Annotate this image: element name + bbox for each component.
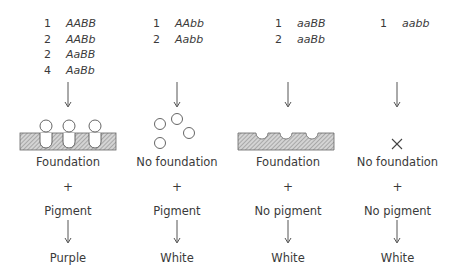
arrow-down-icon [63,82,73,108]
phenotype-label: White [120,251,234,265]
plus-sign: + [0,180,136,194]
foundation-with-pigment-icon [18,112,120,152]
pigment-label: Pigment [0,204,136,218]
foundation-label: Foundation [0,155,136,169]
arrow-down-icon [63,220,73,244]
arrow-down-icon [283,82,293,108]
genotype-row: 2Aabb [153,32,204,48]
genotype-row: 2AaBB [44,47,96,63]
genotype-row: 4AaBb [44,63,96,79]
column-white-double-recessive: 1aabb No foundation + No pigment White [342,0,453,278]
x-mark-icon [390,137,404,151]
genotype-row: 1AABB [44,16,96,32]
arrow-down-icon [392,220,402,244]
phenotype-label: White [342,251,453,265]
arrow-down-icon [283,220,293,244]
genotype-list: 1aabb [380,16,429,32]
phenotype-label: White [230,251,346,265]
loose-pigment-circles-icon [150,112,210,152]
genotype-row: 1aabb [380,16,429,32]
column-white-no-pigment: 1aaBB 2aaBb Foundation + No pigment Whit… [230,0,346,278]
genotype-list: 1AAbb 2Aabb [153,16,204,47]
arrow-down-icon [392,82,402,108]
pigment-label: No pigment [230,204,346,218]
genotype-list: 1aaBB 2aaBb [275,16,326,47]
plus-sign: + [342,180,453,194]
genotype-row: 1aaBB [275,16,326,32]
column-white-no-foundation: 1AAbb 2Aabb No foundation + Pigment Whit… [120,0,234,278]
foundation-label: No foundation [120,155,234,169]
genotype-row: 1AAbb [153,16,204,32]
column-purple: 1AABB 2AABb 2AaBB 4AaBb Foundation + Pig… [0,0,136,278]
phenotype-label: Purple [0,251,136,265]
plus-sign: + [230,180,346,194]
arrow-down-icon [172,220,182,244]
genotype-list: 1AABB 2AABb 2AaBB 4AaBb [44,16,96,78]
empty-foundation-icon [236,112,340,152]
arrow-down-icon [172,82,182,108]
pigment-label: Pigment [120,204,234,218]
foundation-label: Foundation [230,155,346,169]
pigment-label: No pigment [342,204,453,218]
genotype-row: 2aaBb [275,32,326,48]
plus-sign: + [120,180,234,194]
genotype-row: 2AABb [44,32,96,48]
foundation-label: No foundation [342,155,453,169]
